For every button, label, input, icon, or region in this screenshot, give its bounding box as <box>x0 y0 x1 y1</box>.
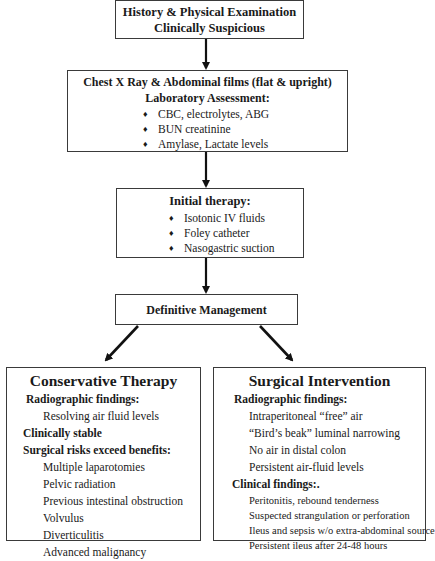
surgical-intervention-title: Surgical Intervention <box>214 370 425 391</box>
therapy-item: Isotonic IV fluids <box>169 211 303 226</box>
clinical-finding: Peritonitis, rebound tenderness <box>214 493 425 508</box>
radiographic-findings-heading: Radiographic findings: <box>214 391 425 408</box>
surgical-risks-heading: Surgical risks exceed benefits: <box>7 442 200 459</box>
lab-assessment-heading: Laboratory Assessment: <box>68 90 347 106</box>
imaging-lab-box: Chest X Ray & Abdominal films (flat & up… <box>67 70 348 152</box>
risk-item: Pelvic radiation <box>7 476 200 493</box>
radiographic-finding: Persistent air-fluid levels <box>214 459 425 476</box>
history-exam-label: History & Physical Examination <box>116 4 303 20</box>
therapy-item: Nasogastric suction <box>169 241 303 256</box>
arrow-right <box>260 326 292 360</box>
definitive-management-label: Definitive Management <box>116 302 297 318</box>
risk-item: Advanced malignancy <box>7 544 200 561</box>
clinical-finding: Persistent ileus after 24-48 hours <box>214 538 425 553</box>
radiographic-finding: Intraperitoneal “free” air <box>214 408 425 425</box>
lab-item: BUN creatinine <box>143 122 347 137</box>
risk-item: Diverticulitis <box>7 527 200 544</box>
radiographic-finding: No air in distal colon <box>214 442 425 459</box>
clinical-findings-heading: Clinical findings:. <box>214 476 425 493</box>
arrow-left <box>106 326 138 360</box>
lab-item: CBC, electrolytes, ABG <box>143 107 347 122</box>
clinically-stable-label: Clinically stable <box>7 425 200 442</box>
lab-list: CBC, electrolytes, ABG BUN creatinine Am… <box>143 107 347 152</box>
definitive-management-box: Definitive Management <box>115 294 298 325</box>
clinically-suspicious-label: Clinically Suspicious <box>116 20 303 36</box>
initial-therapy-box: Initial therapy: Isotonic IV fluids Fole… <box>116 188 304 258</box>
radiographic-finding: Resolving air fluid levels <box>7 408 200 425</box>
initial-therapy-list: Isotonic IV fluids Foley catheter Nasoga… <box>169 211 303 256</box>
therapy-item: Foley catheter <box>169 226 303 241</box>
clinical-finding: Suspected strangulation or perforation <box>214 508 425 523</box>
surgical-intervention-box: Surgical Intervention Radiographic findi… <box>213 367 426 541</box>
risk-item: Previous intestinal obstruction <box>7 493 200 510</box>
conservative-therapy-box: Conservative Therapy Radiographic findin… <box>6 367 201 541</box>
initial-therapy-heading: Initial therapy: <box>117 193 303 210</box>
history-exam-box: History & Physical Examination Clinicall… <box>115 0 304 39</box>
risk-item: Volvulus <box>7 510 200 527</box>
radiographic-findings-heading: Radiographic findings: <box>7 391 200 408</box>
conservative-therapy-title: Conservative Therapy <box>7 370 200 391</box>
imaging-title: Chest X Ray & Abdominal films (flat & up… <box>68 74 347 90</box>
risk-item: Multiple laparotomies <box>7 459 200 476</box>
lab-item: Amylase, Lactate levels <box>143 137 347 152</box>
clinical-finding: Ileus and sepsis w/o extra-abdominal sou… <box>214 523 425 538</box>
radiographic-finding: “Bird’s beak” luminal narrowing <box>214 425 425 442</box>
